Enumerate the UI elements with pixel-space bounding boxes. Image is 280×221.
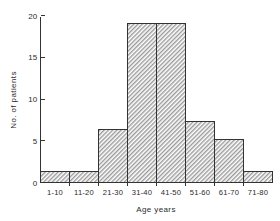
bar — [41, 172, 70, 183]
x-tick-label: 31-40 — [132, 188, 152, 197]
x-tick-label: 11-20 — [74, 188, 94, 197]
bar — [157, 24, 186, 183]
x-tick-label: 71-80 — [248, 188, 268, 197]
y-tick-label: 10 — [28, 95, 38, 104]
x-tick-label: 1-10 — [47, 188, 63, 197]
y-tick-label: 20 — [28, 12, 38, 21]
chart-canvas: 05101520 1-1011-2021-3031-4041-5051-6061… — [0, 0, 280, 221]
bar — [186, 122, 215, 183]
y-axis-title: No. of patients — [9, 71, 18, 129]
x-tick-label: 21-30 — [103, 188, 123, 197]
x-tick-label: 51-60 — [190, 188, 210, 197]
x-axis-title: Age years — [136, 205, 176, 214]
bar — [128, 24, 157, 183]
x-tick-label: 61-70 — [219, 188, 239, 197]
bar — [99, 129, 128, 182]
y-tick-label: 15 — [28, 53, 38, 62]
y-tick-label: 5 — [33, 137, 38, 146]
x-tick-label: 41-50 — [161, 188, 181, 197]
bar — [70, 172, 99, 183]
y-tick-label: 0 — [33, 179, 38, 188]
bar — [215, 139, 244, 182]
bar — [244, 172, 273, 183]
histogram-chart: 05101520 1-1011-2021-3031-4041-5051-6061… — [0, 0, 280, 221]
